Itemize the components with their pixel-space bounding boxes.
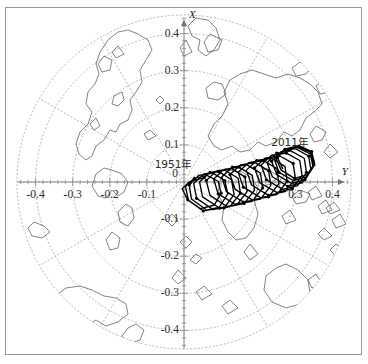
- x-tick--0p2: -0.2: [101, 189, 119, 201]
- x-tick--0p4: -0.4: [26, 189, 44, 201]
- y-tick--0p4: -0.4: [161, 324, 179, 336]
- y-tick--0p2: -0.2: [161, 250, 179, 262]
- y-tick-0p3: 0.3: [165, 65, 179, 77]
- polar-motion-plot: [0, 0, 368, 364]
- y-tick-0p4: 0.4: [165, 28, 179, 40]
- x-tick-0p4: 0.4: [325, 189, 339, 201]
- annotation-1951: 1951年: [155, 159, 192, 170]
- y-tick--0p3: -0.3: [161, 287, 179, 299]
- x-tick--0p3: -0.3: [64, 189, 82, 201]
- x-tick--0p1: -0.1: [138, 189, 156, 201]
- polar-motion-figure: X Y 0 1951年 2011年 -0.4-0.3-0.2-0.10.30.4…: [0, 0, 368, 364]
- annotation-2011: 2011年: [271, 137, 308, 148]
- y-tick-0p1: 0.1: [165, 139, 179, 151]
- x-tick-0p3: 0.3: [288, 189, 302, 201]
- y-axis-label: Y: [342, 165, 348, 177]
- y-tick--0p1: -0.1: [161, 213, 179, 225]
- x-axis-label: X: [189, 8, 196, 20]
- y-tick-0p2: 0.2: [165, 102, 179, 114]
